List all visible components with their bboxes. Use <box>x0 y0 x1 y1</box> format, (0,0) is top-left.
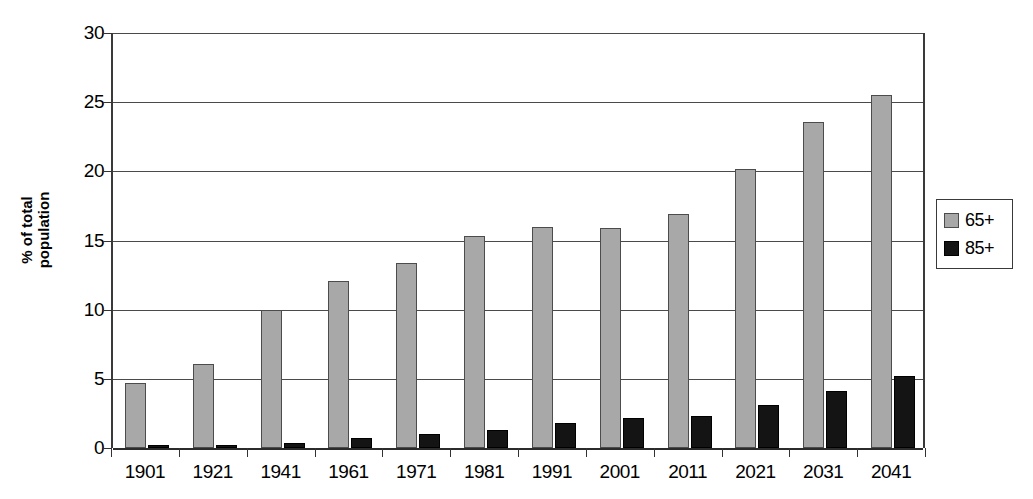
bar-group-2011 <box>656 33 724 448</box>
bar-2021-85plus <box>758 405 779 448</box>
y-tick-mark-20 <box>103 171 112 172</box>
y-tick-mark-25 <box>103 102 112 103</box>
bar-group-2031 <box>791 33 859 448</box>
x-tick-mark-2031 <box>789 448 790 457</box>
bar-group-1921 <box>181 33 249 448</box>
bar-group-1981 <box>452 33 520 448</box>
bar-group-1991 <box>520 33 588 448</box>
y-tick-label-15: 15 <box>64 231 104 250</box>
x-tick-label-2021: 2021 <box>720 461 790 483</box>
bar-group-2041 <box>859 33 927 448</box>
bar-1991-65plus <box>532 227 553 448</box>
y-tick-label-10: 10 <box>64 300 104 319</box>
chart-legend: 65+ 85+ <box>936 199 1013 269</box>
x-tick-label-1981: 1981 <box>449 461 519 483</box>
x-tick-mark-2041 <box>857 448 858 457</box>
legend-label-65: 65+ <box>965 211 994 229</box>
y-axis-title-line-2: population <box>35 192 52 269</box>
y-tick-mark-30 <box>103 33 112 34</box>
x-axis: 1901192119411961197119811991200120112021… <box>111 448 925 499</box>
x-tick-mark-1901 <box>111 448 112 457</box>
x-tick-label-1901: 1901 <box>110 461 180 483</box>
y-tick-label-25: 25 <box>64 92 104 111</box>
bar-1941-65plus <box>261 310 282 448</box>
y-tick-label-0: 0 <box>64 438 104 457</box>
plot-area <box>111 33 925 448</box>
legend-entry-85: 85+ <box>944 234 1012 262</box>
bar-2021-65plus <box>735 169 756 448</box>
bar-1901-65plus <box>125 383 146 448</box>
bar-1921-65plus <box>193 364 214 448</box>
bar-group-1971 <box>384 33 452 448</box>
y-axis-tick-labels: 051015202530 <box>58 0 104 499</box>
x-tick-label-1921: 1921 <box>178 461 248 483</box>
bar-2011-65plus <box>668 214 689 448</box>
bar-group-1941 <box>249 33 317 448</box>
bar-1971-65plus <box>396 263 417 448</box>
y-tick-label-5: 5 <box>64 369 104 388</box>
x-tick-mark-1921 <box>179 448 180 457</box>
x-tick-label-2011: 2011 <box>653 461 723 483</box>
series-85-swatch <box>944 241 959 256</box>
bar-2031-65plus <box>803 122 824 448</box>
series-65-swatch <box>944 213 959 228</box>
y-tick-label-30: 30 <box>64 23 104 42</box>
bar-group-2021 <box>724 33 792 448</box>
x-tick-mark-1991 <box>518 448 519 457</box>
x-tick-mark-1971 <box>382 448 383 457</box>
legend-label-85: 85+ <box>965 239 994 257</box>
x-tick-label-1991: 1991 <box>517 461 587 483</box>
x-tick-label-2001: 2001 <box>585 461 655 483</box>
bar-1981-65plus <box>464 236 485 448</box>
bar-group-2001 <box>588 33 656 448</box>
bar-2041-85plus <box>894 376 915 448</box>
y-axis-title-line-1: % of total <box>18 196 35 264</box>
bar-2041-65plus <box>871 95 892 448</box>
chart-figure: % of total population 051015202530 19011… <box>0 0 1033 499</box>
y-tick-label-20: 20 <box>64 161 104 180</box>
x-tick-label-1941: 1941 <box>246 461 316 483</box>
x-tick-mark-2011 <box>654 448 655 457</box>
bar-group-1961 <box>317 33 385 448</box>
bar-1961-85plus <box>351 438 372 448</box>
bar-1991-85plus <box>555 423 576 448</box>
x-tick-label-1971: 1971 <box>381 461 451 483</box>
y-tick-mark-5 <box>103 379 112 380</box>
bar-groups <box>113 33 923 448</box>
x-tick-mark-2001 <box>586 448 587 457</box>
x-tick-mark-1961 <box>315 448 316 457</box>
bar-1971-85plus <box>419 434 440 448</box>
bar-1981-85plus <box>487 430 508 448</box>
y-tick-mark-15 <box>103 241 112 242</box>
x-tick-label-2041: 2041 <box>856 461 926 483</box>
legend-entry-65: 65+ <box>944 206 1012 234</box>
x-tick-label-2031: 2031 <box>788 461 858 483</box>
bar-2011-85plus <box>691 416 712 449</box>
x-tick-mark-end <box>925 448 926 457</box>
bar-group-1901 <box>113 33 181 448</box>
bar-2001-65plus <box>600 228 621 448</box>
bar-2031-85plus <box>826 391 847 448</box>
x-tick-mark-1981 <box>450 448 451 457</box>
y-tick-mark-10 <box>103 310 112 311</box>
x-tick-mark-1941 <box>247 448 248 457</box>
x-tick-label-1961: 1961 <box>313 461 383 483</box>
x-tick-mark-2021 <box>722 448 723 457</box>
bar-1961-65plus <box>328 281 349 448</box>
bar-2001-85plus <box>623 418 644 448</box>
